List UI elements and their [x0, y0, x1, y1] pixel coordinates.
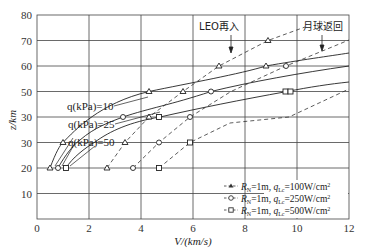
x-tick-10: 10 — [292, 222, 304, 234]
x-tick-12: 12 — [344, 222, 355, 234]
square-marker — [157, 166, 162, 171]
curve-500 — [159, 89, 349, 168]
y-tick-10: 10 — [21, 188, 33, 200]
legend-item-250: RN=1m, qLc=250W/cm2 — [224, 194, 330, 205]
circle-marker — [284, 64, 289, 69]
heat-flux-curves — [107, 27, 349, 168]
x-tick-4: 4 — [138, 222, 144, 234]
curve-100 — [107, 27, 305, 168]
legend: RN=1m, qLc=100W/cm2 RN=1m, qLc=250W/cm2 … — [224, 182, 330, 217]
square-marker — [288, 89, 293, 94]
y-tick-80: 80 — [21, 9, 33, 21]
y-tick-50: 50 — [21, 86, 33, 98]
triangle-marker — [122, 140, 128, 145]
triangle-marker — [47, 165, 53, 170]
x-axis-label: V/(km/s) — [174, 235, 212, 248]
triangle-marker — [180, 89, 186, 94]
lunar-return-label: 月球返回 — [303, 20, 343, 32]
q25-label: q(kPa)=25 — [68, 118, 115, 131]
svg-text:RN=1m, qLc=100W/cm2: RN=1m, qLc=100W/cm2 — [240, 182, 330, 193]
svg-text:RN=1m, qLc=500W/cm2: RN=1m, qLc=500W/cm2 — [240, 206, 330, 217]
square-marker — [64, 166, 69, 171]
svg-text:RN=1m, qLc=250W/cm2: RN=1m, qLc=250W/cm2 — [240, 194, 330, 205]
y-axis-label: z/km — [6, 110, 18, 131]
y-tick-60: 60 — [21, 60, 33, 72]
x-axis-ticks: 0 2 4 6 8 10 12 — [34, 222, 354, 234]
y-tick-40: 30 — [21, 111, 33, 123]
y-tick-20: 20 — [21, 162, 33, 174]
circle-marker — [121, 115, 126, 120]
legend-item-100: RN=1m, qLc=100W/cm2 — [224, 182, 330, 193]
x-tick-0: 0 — [34, 222, 40, 234]
chart: 80 70 60 50 30 30 20 10 0 2 4 6 8 10 12 … — [0, 0, 365, 251]
square-marker — [157, 115, 162, 120]
x-tick-8: 8 — [242, 222, 248, 234]
y-axis-ticks: 80 70 60 50 30 30 20 10 — [21, 9, 33, 200]
curve-250 — [133, 40, 349, 168]
square-marker — [283, 89, 288, 94]
circle-marker — [131, 166, 136, 171]
leo-reentry-label: LEO再入 — [199, 21, 239, 32]
circle-marker — [56, 166, 61, 171]
circle-marker — [157, 140, 162, 145]
triangle-marker — [216, 63, 222, 68]
q10-label: q(kPa)=10 — [67, 100, 114, 113]
legend-item-500: RN=1m, qLc=500W/cm2 — [224, 206, 330, 217]
y-tick-30: 30 — [21, 137, 33, 149]
triangle-marker — [104, 165, 110, 170]
circle-marker — [188, 115, 193, 120]
x-tick-2: 2 — [86, 222, 92, 234]
circle-marker — [209, 89, 214, 94]
y-tick-70: 70 — [21, 35, 33, 47]
q-annotations: q(kPa)=10 q(kPa)=25 q(kPa)=50 — [55, 97, 160, 166]
q50-label: q(kPa)=50 — [68, 136, 115, 149]
x-tick-6: 6 — [190, 222, 196, 234]
square-marker — [188, 140, 193, 145]
